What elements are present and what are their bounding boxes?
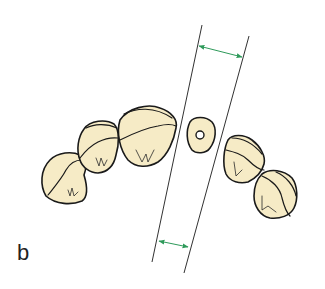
tooth-right-2 [254, 171, 297, 219]
dimension-arrow-top [199, 46, 242, 57]
panel-label: b [17, 240, 29, 266]
dental-arch-figure [0, 0, 325, 289]
dimension-arrow-bottom [159, 241, 188, 247]
center-root [187, 118, 215, 153]
tooth-left-2 [78, 121, 118, 173]
tooth-right-1 [224, 136, 265, 183]
root-canal-opening [196, 131, 204, 139]
tooth-left-3 [118, 106, 176, 166]
